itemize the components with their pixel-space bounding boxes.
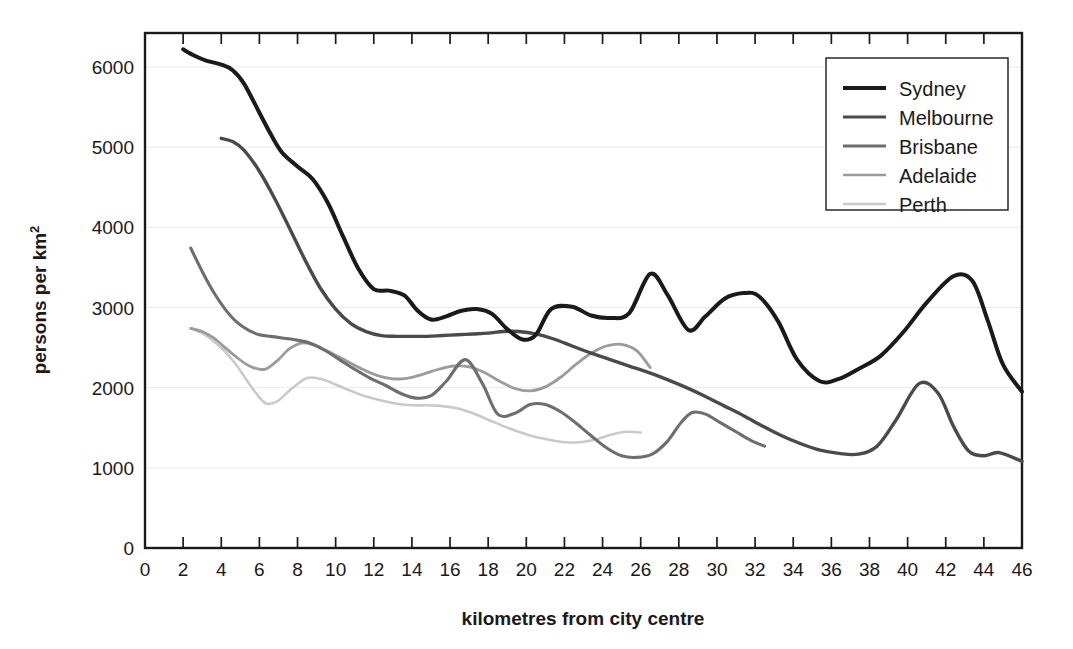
x-tick-label: 44 xyxy=(973,559,995,580)
y-tick-label: 0 xyxy=(123,538,134,559)
x-tick-label: 20 xyxy=(516,559,537,580)
legend-label-melbourne: Melbourne xyxy=(899,107,994,129)
x-tick-label: 42 xyxy=(935,559,956,580)
x-axis-tick-labels: 0246810121416182022242628303234363840424… xyxy=(140,559,1033,580)
x-tick-label: 40 xyxy=(897,559,918,580)
legend-label-brisbane: Brisbane xyxy=(899,136,978,158)
y-axis-title-superscript: 2 xyxy=(27,226,42,233)
y-axis-tick-labels: 0100020003000400050006000 xyxy=(92,57,134,559)
x-tick-label: 46 xyxy=(1011,559,1032,580)
x-tick-label: 30 xyxy=(706,559,727,580)
x-tick-label: 6 xyxy=(254,559,265,580)
x-tick-label: 16 xyxy=(439,559,460,580)
x-tick-label: 28 xyxy=(668,559,689,580)
x-tick-label: 4 xyxy=(216,559,227,580)
legend-label-perth: Perth xyxy=(899,194,947,216)
y-tick-label: 1000 xyxy=(92,458,134,479)
legend-label-sydney: Sydney xyxy=(899,78,966,100)
series-line-brisbane xyxy=(191,248,765,457)
x-axis-ticks-top xyxy=(145,33,1022,44)
y-tick-label: 3000 xyxy=(92,298,134,319)
line-chart: 0246810121416182022242628303234363840424… xyxy=(0,0,1073,649)
x-tick-label: 22 xyxy=(554,559,575,580)
chart-legend: SydneyMelbourneBrisbaneAdelaidePerth xyxy=(826,58,1008,216)
x-tick-label: 10 xyxy=(325,559,346,580)
y-tick-label: 2000 xyxy=(92,378,134,399)
x-tick-label: 8 xyxy=(292,559,303,580)
y-tick-label: 4000 xyxy=(92,217,134,238)
x-tick-label: 18 xyxy=(478,559,499,580)
y-axis-title: persons per km2 xyxy=(27,226,51,375)
x-tick-label: 14 xyxy=(401,559,423,580)
y-tick-label: 5000 xyxy=(92,137,134,158)
x-tick-label: 26 xyxy=(630,559,651,580)
x-tick-label: 38 xyxy=(859,559,880,580)
x-tick-label: 34 xyxy=(783,559,805,580)
x-axis-title: kilometres from city centre xyxy=(462,608,705,629)
chart-figure: 0246810121416182022242628303234363840424… xyxy=(0,0,1073,649)
x-axis-ticks-bottom xyxy=(145,537,1022,548)
x-tick-label: 0 xyxy=(140,559,151,580)
x-tick-label: 2 xyxy=(178,559,189,580)
legend-label-adelaide: Adelaide xyxy=(899,165,977,187)
y-tick-label: 6000 xyxy=(92,57,134,78)
x-tick-label: 36 xyxy=(821,559,842,580)
x-tick-label: 12 xyxy=(363,559,384,580)
x-tick-label: 32 xyxy=(745,559,766,580)
x-tick-label: 24 xyxy=(592,559,614,580)
